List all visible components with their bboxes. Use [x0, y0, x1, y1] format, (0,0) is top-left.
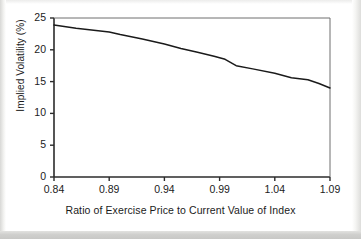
- x-tick-label: 1.04: [255, 183, 295, 195]
- x-tick-label: 0.84: [34, 183, 74, 195]
- x-tick-label: 0.99: [200, 183, 240, 195]
- y-axis-title: Implied Volatility (%): [15, 6, 26, 126]
- x-tick-label: 0.94: [144, 183, 184, 195]
- y-tick-label: 0: [20, 170, 46, 182]
- x-axis-title: Ratio of Exercise Price to Current Value…: [0, 204, 361, 216]
- y-tick-label: 5: [20, 138, 46, 150]
- tick-marks-group: [50, 18, 330, 181]
- implied-volatility-line: [54, 25, 330, 88]
- x-tick-label: 1.09: [310, 183, 350, 195]
- x-tick-label: 0.89: [89, 183, 129, 195]
- axes-group: [54, 18, 330, 177]
- figure-container: 0510152025 0.840.890.940.991.041.09 Impl…: [0, 0, 361, 239]
